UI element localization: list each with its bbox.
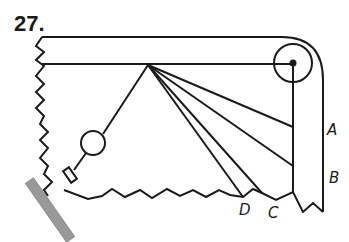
- ground-zigzag: [64, 189, 323, 212]
- diagram-figure: 27. A B C D: [0, 0, 349, 242]
- label-D: D: [239, 201, 251, 219]
- left-break-zigzag: [36, 37, 52, 196]
- pendulum-string-upper: [103, 65, 148, 134]
- shaded-rod: [25, 178, 74, 242]
- label-A: A: [326, 121, 337, 139]
- ray-to-C: [148, 65, 262, 193]
- ray-to-B: [148, 65, 293, 166]
- label-C: C: [268, 204, 279, 222]
- pendulum-string-lower: [74, 153, 86, 170]
- figure-number: 27.: [14, 11, 45, 36]
- label-B: B: [329, 169, 339, 187]
- pendulum-bob: [81, 131, 105, 155]
